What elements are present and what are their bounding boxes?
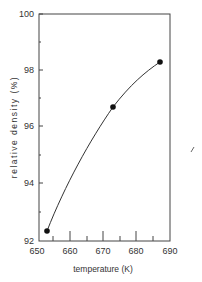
- x-tick-690: 690: [162, 246, 177, 256]
- y-axis-label: relative density (%): [9, 76, 19, 178]
- data-point-653: [44, 228, 50, 234]
- y-tick-96: 96: [24, 121, 34, 131]
- x-tick-670: 670: [95, 246, 110, 256]
- stray-mark: [191, 147, 194, 152]
- y-tick-94: 94: [24, 178, 34, 188]
- y-tick-100: 100: [19, 9, 34, 19]
- x-axis-label: temperature (K): [73, 264, 133, 274]
- y-tick-98: 98: [24, 65, 34, 75]
- x-tick-660: 660: [62, 246, 77, 256]
- x-axis: 650 660 670 680 690: [29, 231, 177, 256]
- chart: 100 98 96 94 92 650 660 670 680 690 temp…: [0, 0, 202, 282]
- plot-frame: [39, 14, 170, 241]
- data-point-673: [110, 104, 116, 110]
- x-tick-650: 650: [29, 246, 44, 256]
- density-curve: [47, 62, 160, 231]
- y-tick-92: 92: [24, 236, 34, 246]
- data-point-687: [157, 59, 163, 65]
- x-tick-680: 680: [128, 246, 143, 256]
